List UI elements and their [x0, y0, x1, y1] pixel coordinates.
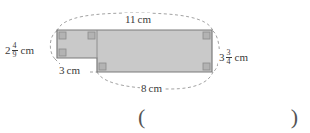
geometry-figure: 11 cm 2 4 9 cm 3 3 4 cm 8 [0, 0, 310, 133]
answer-open-paren: ( [138, 106, 145, 128]
left-height-numerator: 4 [12, 42, 18, 50]
left-height-denominator: 9 [12, 51, 18, 59]
right-height-numerator: 3 [226, 49, 232, 57]
top-width-unit: cm [138, 14, 151, 25]
right-angle-marker-bottom-right [203, 63, 210, 70]
left-height-fraction: 4 9 [12, 42, 18, 59]
left-height-unit: cm [21, 45, 34, 56]
left-height-whole: 2 [5, 45, 11, 56]
right-height-fraction: 3 4 [226, 49, 232, 66]
right-height-denominator: 4 [226, 58, 232, 66]
label-inner-step-width: 3 cm [58, 64, 81, 76]
label-right-height: 3 3 4 cm [218, 49, 249, 66]
bottom-width-value: 8 cm [141, 83, 162, 94]
right-height-unit: cm [235, 52, 248, 63]
top-width-whole: 11 [125, 14, 136, 25]
answer-blank[interactable]: ( ) [138, 105, 298, 129]
answer-close-paren: ) [291, 106, 298, 128]
right-angle-marker-step-bottom [99, 63, 106, 70]
right-height-value: 3 3 4 cm [219, 49, 248, 66]
right-angle-marker-top-left [59, 32, 66, 39]
bottom-width-whole: 8 [141, 83, 147, 94]
right-angle-marker-step-top [88, 32, 95, 39]
right-height-whole: 3 [219, 52, 225, 63]
inner-step-whole: 3 [59, 65, 65, 76]
inner-step-unit: cm [67, 65, 80, 76]
left-height-value: 2 4 9 cm [5, 42, 34, 59]
inner-step-value: 3 cm [59, 65, 80, 76]
label-top-width: 11 cm [124, 13, 152, 25]
right-angle-marker-top-right [203, 32, 210, 39]
left-dimension-arc [50, 31, 57, 59]
right-angle-marker-mid-left [59, 49, 66, 56]
top-width-value: 11 cm [125, 14, 151, 25]
label-left-height: 2 4 9 cm [4, 42, 35, 59]
bottom-width-unit: cm [149, 83, 162, 94]
label-bottom-width: 8 cm [140, 82, 163, 94]
